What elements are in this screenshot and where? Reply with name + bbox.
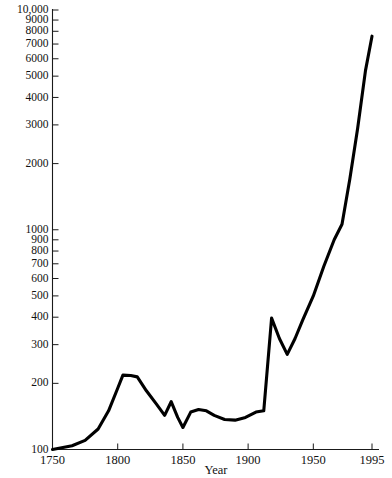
chart-container: 1002003004005006007008009001000200030004… bbox=[0, 0, 392, 478]
y-tick-label-8000: 8000 bbox=[26, 24, 49, 36]
y-tick-label-2000: 2000 bbox=[26, 157, 49, 169]
x-tick-label-1800: 1800 bbox=[105, 453, 130, 467]
x-tick-label-1850: 1850 bbox=[170, 453, 195, 467]
x-axis-title: Year bbox=[204, 463, 228, 477]
y-tick-label-500: 500 bbox=[31, 289, 49, 301]
data-series-line bbox=[53, 36, 373, 449]
x-tick-label-1995: 1995 bbox=[360, 453, 385, 467]
y-tick-label-4000: 4000 bbox=[26, 91, 49, 103]
y-tick-label-7000: 7000 bbox=[26, 37, 49, 49]
x-axis-tick-marks bbox=[53, 444, 373, 450]
y-tick-label-3000: 3000 bbox=[26, 118, 49, 130]
y-axis-tick-marks bbox=[53, 10, 59, 450]
y-tick-label-200: 200 bbox=[31, 376, 49, 388]
y-tick-label-800: 800 bbox=[31, 244, 49, 256]
y-axis-tick-labels: 1002003004005006007008009001000200030004… bbox=[17, 3, 49, 455]
y-tick-label-300: 300 bbox=[31, 338, 49, 350]
y-tick-label-6000: 6000 bbox=[26, 52, 49, 64]
y-tick-label-400: 400 bbox=[31, 310, 49, 322]
y-tick-label-1000: 1000 bbox=[26, 223, 49, 235]
x-tick-label-1900: 1900 bbox=[236, 453, 261, 467]
line-chart: 1002003004005006007008009001000200030004… bbox=[0, 0, 392, 478]
y-tick-label-600: 600 bbox=[31, 272, 49, 284]
y-tick-label-10000: 10,000 bbox=[17, 3, 49, 16]
y-tick-label-700: 700 bbox=[31, 257, 49, 269]
y-tick-label-5000: 5000 bbox=[26, 69, 49, 81]
x-tick-label-1950: 1950 bbox=[301, 453, 326, 467]
x-tick-label-1750: 1750 bbox=[40, 453, 65, 467]
